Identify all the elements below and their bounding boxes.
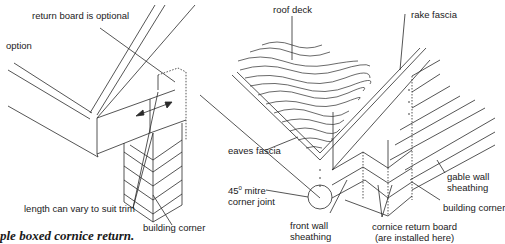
- gable-sheathing-text: sheathing: [447, 182, 488, 193]
- label-return-board-optional: return board is optional: [32, 10, 129, 21]
- label-building-corner-left: building corner: [143, 222, 205, 233]
- label-length-can-vary: length can vary to suit trim: [24, 203, 135, 214]
- label-mitre-corner-joint: 450 mitre corner joint: [228, 183, 275, 207]
- label-gable-wall-sheathing: gable wall sheathing: [447, 171, 489, 193]
- corner-joint-text: corner joint: [228, 196, 275, 207]
- figure-caption: ple boxed cornice return.: [0, 228, 134, 244]
- front-wall-text: front wall: [290, 220, 328, 231]
- label-roof-deck: roof deck: [273, 4, 312, 15]
- label-cornice-return-board: cornice return board (are installed here…: [372, 221, 457, 243]
- label-rake-fascia: rake fascia: [411, 9, 457, 20]
- mitre-angle-value: 45: [228, 185, 239, 196]
- label-eaves-fascia: eaves fascia: [228, 145, 281, 156]
- gable-wall-text: gable wall: [447, 171, 489, 182]
- cornice-text: cornice return board: [372, 221, 457, 232]
- installed-here-text: (are installed here): [375, 232, 454, 243]
- sheathing-text: sheathing: [290, 231, 331, 242]
- label-building-corner-right: building corner: [443, 202, 505, 213]
- label-option: option: [6, 40, 32, 51]
- label-front-wall-sheathing: front wall sheathing: [290, 220, 331, 242]
- mitre-text: mitre: [242, 185, 266, 196]
